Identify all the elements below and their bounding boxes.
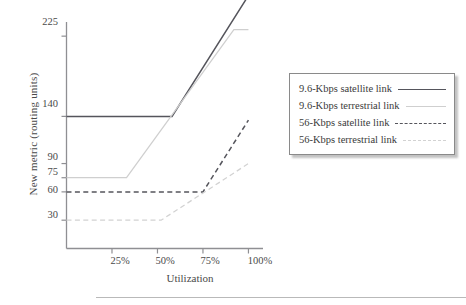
legend-item: 9.6-Kbps terrestrial link (299, 97, 446, 114)
series-line (67, 0, 249, 116)
legend-swatch-dash-light (403, 135, 446, 145)
axis-ticks (62, 36, 249, 253)
page-rule (96, 297, 466, 298)
legend-swatch-solid-light (406, 101, 446, 111)
legend-label: 56-Kbps terrestrial link (299, 134, 397, 145)
legend-label: 56-Kbps satellite link (299, 117, 389, 128)
legend-item: 9.6-Kbps satellite link (299, 80, 446, 97)
data-series-group (67, 0, 249, 220)
series-line (67, 30, 249, 178)
legend-label: 9.6-Kbps terrestrial link (299, 100, 400, 111)
axis-lines (67, 22, 264, 249)
chart-legend: 9.6-Kbps satellite link 9.6-Kbps terrest… (289, 73, 455, 155)
legend-label: 9.6-Kbps satellite link (299, 83, 392, 94)
chart-figure: New metric (routing units) 225 140 90 75… (0, 0, 466, 305)
legend-item: 56-Kbps terrestrial link (299, 131, 446, 148)
legend-item: 56-Kbps satellite link (299, 114, 446, 131)
series-line (67, 120, 249, 192)
legend-swatch-dash-dark (395, 118, 446, 128)
legend-swatch-solid-dark (398, 84, 446, 94)
